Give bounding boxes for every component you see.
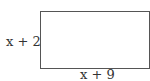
height-label: x + 2: [6, 35, 41, 48]
rectangle-shape: [40, 11, 150, 69]
width-label: x + 9: [80, 68, 115, 81]
